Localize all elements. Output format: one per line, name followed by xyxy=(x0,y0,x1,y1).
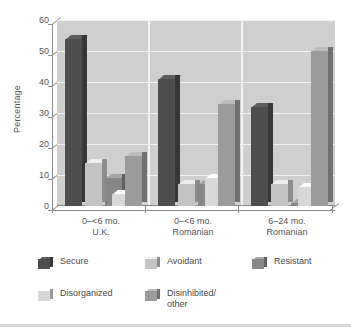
bar-group3-secure xyxy=(251,107,268,206)
gridline-20 xyxy=(57,144,335,145)
legend-swatch-avoidant-icon xyxy=(145,257,160,269)
chart-legend: Secure Avoidant Resistant xyxy=(38,256,348,318)
x-tickmark-1 xyxy=(145,206,146,213)
legend-label-secure: Secure xyxy=(60,256,89,267)
bar-group2-avoidant xyxy=(178,184,195,206)
swatch-side-face xyxy=(50,257,53,267)
group-separator-1 xyxy=(148,20,150,206)
bar-front-face xyxy=(271,184,288,206)
x-axis-line xyxy=(52,210,335,211)
bar-front-face xyxy=(125,156,142,206)
legend-item-disorganized: Disorganized xyxy=(38,288,113,301)
x-tickmark-3 xyxy=(332,206,333,213)
x-tickmark-2 xyxy=(238,206,239,213)
bar-front-face xyxy=(311,51,328,206)
bar-front-face xyxy=(178,184,195,206)
bar-side-face xyxy=(328,47,333,202)
gridline-50 xyxy=(57,51,335,52)
bar-side-face xyxy=(235,100,240,202)
bar-side-face xyxy=(288,180,293,202)
x-label-group3-line2: Romanian xyxy=(242,227,332,238)
legend-item-secure: Secure xyxy=(38,256,89,269)
y-tick-0: 0 xyxy=(31,202,49,211)
chart-figure: Percentage 60 50 40 30 20 10 0 xyxy=(0,0,351,331)
legend-label-avoidant: Avoidant xyxy=(167,256,202,267)
x-label-group1-line1: 0–<6 mo. xyxy=(56,216,146,227)
bar-group2-secure xyxy=(158,79,175,206)
legend-item-resistant: Resistant xyxy=(252,256,312,269)
bar-front-face xyxy=(158,79,175,206)
x-label-group3-line1: 6–24 mo. xyxy=(242,216,332,227)
bar-front-face xyxy=(85,163,102,206)
gridline-40 xyxy=(57,82,335,83)
swatch-front-face xyxy=(145,291,157,301)
gridline-30 xyxy=(57,113,335,114)
bar-group3-avoidant xyxy=(271,184,288,206)
x-label-group2: 0–<6 mo. Romanian xyxy=(148,216,238,238)
x-label-group3: 6–24 mo. Romanian xyxy=(242,216,332,238)
plot-area xyxy=(57,20,335,206)
swatch-side-face xyxy=(157,257,160,267)
swatch-front-face xyxy=(145,259,157,269)
x-label-group2-line2: Romanian xyxy=(148,227,238,238)
swatch-side-face xyxy=(50,289,53,299)
bar-group1-secure xyxy=(65,39,82,206)
swatch-side-face xyxy=(264,257,267,267)
gridline-60 xyxy=(57,20,335,21)
y-tick-60: 60 xyxy=(31,16,49,25)
swatch-front-face xyxy=(38,291,50,301)
legend-swatch-disinhibited-icon xyxy=(145,289,160,301)
legend-label-resistant: Resistant xyxy=(274,256,312,267)
y-tick-40: 40 xyxy=(31,78,49,87)
legend-swatch-disorganized-icon xyxy=(38,289,53,301)
y-tick-20: 20 xyxy=(31,140,49,149)
swatch-side-face xyxy=(157,289,160,299)
y-tick-50: 50 xyxy=(31,47,49,56)
bar-front-face xyxy=(65,39,82,206)
bar-group1-disinhibited xyxy=(125,156,142,206)
bar-group1-avoidant xyxy=(85,163,102,206)
swatch-front-face xyxy=(38,259,50,269)
bottom-divider xyxy=(0,324,351,327)
bar-group3-disinhibited xyxy=(311,51,328,206)
legend-swatch-secure-icon xyxy=(38,257,53,269)
x-label-group1-line2: U.K. xyxy=(56,227,146,238)
y-tick-30: 30 xyxy=(31,109,49,118)
group-separator-2 xyxy=(241,20,243,206)
bar-side-face xyxy=(142,152,147,202)
legend-item-avoidant: Avoidant xyxy=(145,256,202,269)
legend-swatch-resistant-icon xyxy=(252,257,267,269)
x-tickmark-0 xyxy=(52,206,53,213)
bar-group2-disinhibited xyxy=(218,104,235,206)
y-axis-title: Percentage xyxy=(12,59,22,159)
x-label-group1: 0–<6 mo. U.K. xyxy=(56,216,146,238)
legend-label-disinhibited: Disinhibited/ other xyxy=(167,288,216,310)
bar-front-face xyxy=(251,107,268,206)
x-label-group2-line1: 0–<6 mo. xyxy=(148,216,238,227)
swatch-front-face xyxy=(252,259,264,269)
legend-label-disorganized: Disorganized xyxy=(60,288,113,299)
y-tick-10: 10 xyxy=(31,171,49,180)
bar-front-face xyxy=(218,104,235,206)
legend-item-disinhibited: Disinhibited/ other xyxy=(145,288,216,310)
